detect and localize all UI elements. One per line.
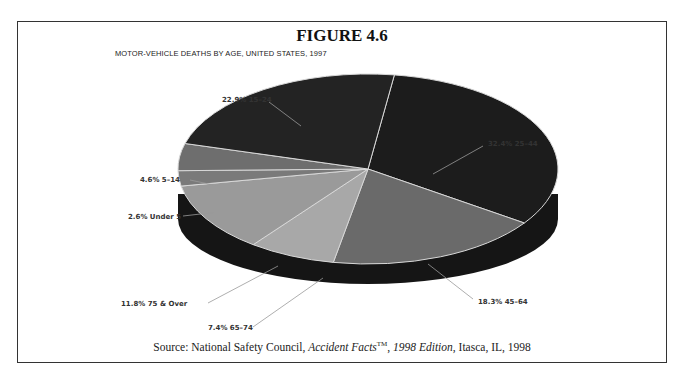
source-publication: Accident Facts [308, 341, 377, 353]
label-45-64: 18.3% 45–64 [478, 298, 528, 306]
source-edition: 1998 Edition [393, 341, 453, 353]
label-under-5: 2.6% Under 5 [128, 213, 181, 221]
label-25-44: 32.4% 25–44 [488, 140, 538, 148]
label-75-over: 11.8% 75 & Over [121, 300, 188, 308]
figure-frame: FIGURE 4.6 MOTOR-VEHICLE DEATHS BY AGE, … [17, 21, 667, 363]
pie-chart: 32.4% 25–44 18.3% 45–64 7.4% 65–74 11.8%… [18, 22, 668, 364]
label-65-74: 7.4% 65–74 [208, 324, 253, 332]
source-prefix: Source: National Safety Council, [153, 341, 308, 353]
source-suffix: , Itasca, IL, 1998 [453, 341, 531, 353]
source-note: Source: National Safety Council, Acciden… [18, 340, 666, 353]
label-5-14: 4.6% 5–14 [140, 176, 180, 184]
label-15-24: 22.9% 15–24 [222, 96, 272, 104]
trademark: TM [377, 340, 388, 348]
